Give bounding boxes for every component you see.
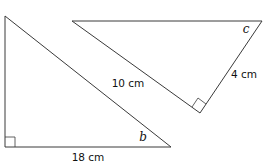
triangle-2: 10 cm 4 cm c (72, 21, 262, 113)
diagram-canvas: 18 cm b 10 cm 4 cm c (0, 0, 263, 165)
triangle-1-hypotenuse (5, 16, 171, 147)
triangle-2-long-leg (72, 21, 200, 113)
triangle-2-short-leg-label: 4 cm (231, 68, 257, 80)
triangle-1-base-label: 18 cm (72, 151, 105, 163)
triangle-2-right-angle-marker (192, 98, 206, 107)
triangle-2-long-leg-label: 10 cm (112, 77, 145, 89)
triangle-1-right-angle-marker (5, 137, 15, 147)
triangle-2-short-leg (200, 21, 262, 113)
triangle-2-angle-label: c (243, 22, 250, 36)
triangle-1: 18 cm b (5, 16, 171, 163)
triangle-1-angle-label: b (139, 130, 147, 144)
